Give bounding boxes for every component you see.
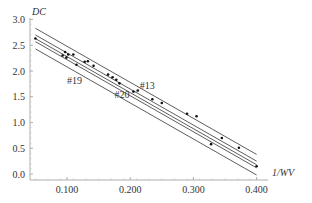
regression-line bbox=[35, 42, 256, 168]
data-point bbox=[65, 56, 68, 59]
data-point bbox=[67, 53, 70, 56]
y-tick-label: 1.5 bbox=[13, 91, 26, 102]
y-tick-label: 1.0 bbox=[13, 117, 26, 128]
data-point bbox=[161, 102, 164, 105]
data-point bbox=[118, 82, 121, 85]
data-point bbox=[72, 53, 75, 56]
data-point bbox=[210, 143, 213, 146]
line-label: #13 bbox=[140, 80, 155, 91]
data-point bbox=[255, 165, 258, 168]
data-point bbox=[238, 146, 241, 149]
regression-line bbox=[35, 49, 256, 175]
data-point bbox=[92, 65, 95, 68]
data-point bbox=[64, 51, 67, 54]
y-tick-label: 0.0 bbox=[13, 169, 26, 180]
data-point bbox=[195, 115, 198, 118]
data-point bbox=[34, 37, 37, 40]
line-label: #20 bbox=[114, 89, 129, 100]
regression-line bbox=[35, 39, 256, 165]
y-tick-label: 3.0 bbox=[13, 14, 26, 25]
axes: 0.00.51.01.52.02.53.00.1000.2000.3000.40… bbox=[13, 6, 297, 195]
x-tick-label: 0.300 bbox=[182, 184, 205, 195]
regression-line bbox=[35, 28, 256, 154]
y-tick-label: 0.5 bbox=[13, 143, 26, 154]
y-tick-label: 2.0 bbox=[13, 66, 26, 77]
y-axis-label: DC bbox=[31, 6, 46, 17]
x-tick-label: 0.400 bbox=[245, 184, 268, 195]
data-point bbox=[61, 54, 64, 57]
x-tick-label: 0.200 bbox=[119, 184, 142, 195]
y-tick-label: 2.5 bbox=[13, 40, 26, 51]
data-point bbox=[186, 112, 189, 115]
x-axis-label: 1/WV bbox=[272, 167, 296, 178]
data-point bbox=[75, 64, 78, 67]
data-point bbox=[115, 78, 118, 81]
line-label: #19 bbox=[67, 75, 82, 86]
annotations: #13#19#20 bbox=[67, 75, 155, 100]
data-point bbox=[87, 60, 90, 63]
data-point bbox=[83, 60, 86, 63]
data-point bbox=[221, 137, 224, 140]
chart: 0.00.51.01.52.02.53.00.1000.2000.3000.40… bbox=[0, 0, 312, 203]
regression-lines bbox=[35, 28, 256, 175]
data-point bbox=[107, 73, 110, 76]
data-point bbox=[151, 98, 154, 101]
data-point bbox=[111, 76, 114, 79]
x-tick-label: 0.100 bbox=[56, 184, 79, 195]
